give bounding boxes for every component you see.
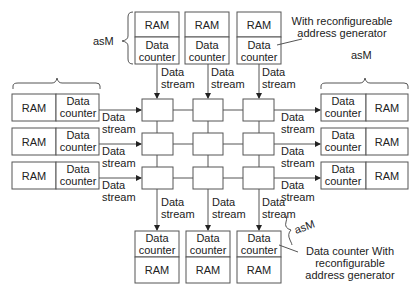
svg-text:counter: counter <box>241 244 278 256</box>
bottom-note-line3: address generator <box>305 269 395 281</box>
svg-text:stream: stream <box>281 123 315 135</box>
svg-text:stream: stream <box>211 78 245 90</box>
svg-text:RAM: RAM <box>375 170 399 182</box>
svg-text:RAM: RAM <box>247 264 271 276</box>
svg-text:Data: Data <box>102 145 126 157</box>
svg-text:RAM: RAM <box>196 264 220 276</box>
svg-text:counter: counter <box>325 141 362 153</box>
svg-text:Data: Data <box>102 179 126 191</box>
svg-text:counter: counter <box>325 175 362 187</box>
svg-text:stream: stream <box>281 157 315 169</box>
left-module-3: RAM Data counter <box>12 162 99 189</box>
svg-text:Data: Data <box>262 196 286 208</box>
bottom-asm-label: asM <box>293 217 317 235</box>
svg-text:RAM: RAM <box>22 136 46 148</box>
svg-text:Data: Data <box>247 232 271 244</box>
svg-text:RAM: RAM <box>145 264 169 276</box>
svg-text:Data: Data <box>66 129 90 141</box>
bottom-note-leader <box>279 245 298 252</box>
top-module-1: RAM Data counter <box>135 12 179 64</box>
svg-text:Data: Data <box>161 196 185 208</box>
top-module-3: RAM Data counter <box>237 12 281 64</box>
bottom-note-line2: reconfigurable <box>315 257 385 269</box>
svg-text:stream: stream <box>161 208 195 220</box>
right-brace <box>321 78 408 89</box>
svg-text:Data: Data <box>145 39 169 51</box>
svg-text:stream: stream <box>212 208 246 220</box>
svg-text:RAM: RAM <box>375 102 399 114</box>
svg-text:stream: stream <box>262 78 296 90</box>
svg-text:RAM: RAM <box>195 19 219 31</box>
svg-text:Data: Data <box>331 95 355 107</box>
svg-text:RAM: RAM <box>22 102 46 114</box>
svg-text:Data: Data <box>66 95 90 107</box>
right-module-3: Data counter RAM <box>321 162 408 189</box>
right-module-2: Data counter RAM <box>321 128 408 155</box>
top-brace <box>122 12 133 64</box>
svg-text:counter: counter <box>60 107 97 119</box>
svg-text:counter: counter <box>139 244 176 256</box>
svg-text:RAM: RAM <box>375 136 399 148</box>
right-asm-label: asM <box>351 49 372 61</box>
bottom-module-1: Data counter RAM <box>135 231 179 283</box>
right-module-1: Data counter RAM <box>321 94 408 121</box>
svg-text:RAM: RAM <box>247 19 271 31</box>
svg-text:Data: Data <box>195 39 219 51</box>
left-brace <box>13 78 100 89</box>
svg-text:counter: counter <box>190 244 227 256</box>
svg-text:Data: Data <box>161 66 185 78</box>
svg-text:counter: counter <box>325 107 362 119</box>
svg-text:stream: stream <box>102 123 136 135</box>
svg-text:counter: counter <box>241 51 278 63</box>
svg-text:Data: Data <box>331 163 355 175</box>
svg-text:Data: Data <box>281 179 305 191</box>
svg-text:stream: stream <box>102 157 136 169</box>
top-module-2: RAM Data counter <box>185 12 229 64</box>
svg-text:counter: counter <box>60 141 97 153</box>
svg-text:Data: Data <box>281 111 305 123</box>
bottom-module-3: Data counter RAM <box>237 231 281 283</box>
svg-text:stream: stream <box>262 208 296 220</box>
svg-text:Data: Data <box>196 232 220 244</box>
svg-text:Data: Data <box>211 66 235 78</box>
svg-text:counter: counter <box>60 175 97 187</box>
reconfigurable-array-diagram: RAM Data counter RAM Data counter RAM Da… <box>0 0 417 294</box>
top-note-line2: address generator <box>297 27 387 39</box>
svg-text:Data: Data <box>102 111 126 123</box>
svg-text:RAM: RAM <box>22 170 46 182</box>
svg-text:Data: Data <box>66 163 90 175</box>
svg-text:stream: stream <box>161 78 195 90</box>
top-asm-label: asM <box>93 35 114 47</box>
svg-text:stream: stream <box>102 191 136 203</box>
svg-text:Data: Data <box>247 39 271 51</box>
bottom-note-line1: Data counter With <box>306 245 394 257</box>
left-module-1: RAM Data counter <box>12 94 99 121</box>
svg-text:RAM: RAM <box>145 19 169 31</box>
svg-text:Data: Data <box>145 232 169 244</box>
svg-text:Data: Data <box>331 129 355 141</box>
svg-text:Data: Data <box>212 196 236 208</box>
svg-text:Data: Data <box>281 145 305 157</box>
svg-text:stream: stream <box>281 191 315 203</box>
svg-text:Data: Data <box>262 66 286 78</box>
svg-text:counter: counter <box>139 51 176 63</box>
top-note-line1: With reconfigureable <box>292 15 393 27</box>
bottom-module-2: Data counter RAM <box>186 231 230 283</box>
processing-grid <box>142 99 274 189</box>
left-module-2: RAM Data counter <box>12 128 99 155</box>
svg-text:counter: counter <box>189 51 226 63</box>
